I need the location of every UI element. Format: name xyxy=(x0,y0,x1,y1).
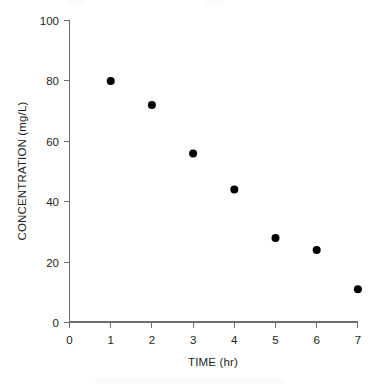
y-tick-label: 0 xyxy=(53,317,59,329)
y-tick-label: 80 xyxy=(46,75,59,87)
y-tick-label: 60 xyxy=(46,136,59,148)
data-point xyxy=(148,101,156,109)
chart-canvas: 100 80 60 40 20 0 0 1 2 3 4 5 6 7 xyxy=(0,0,373,385)
data-point xyxy=(189,149,197,157)
y-tick-label: 40 xyxy=(46,196,59,208)
x-tick-label: 4 xyxy=(231,334,238,346)
x-tick-label: 1 xyxy=(107,334,113,346)
x-tick-label: 5 xyxy=(272,334,278,346)
data-point xyxy=(354,285,362,293)
x-axis-title: TIME (hr) xyxy=(188,356,238,368)
scatter-chart: 100 80 60 40 20 0 0 1 2 3 4 5 6 7 xyxy=(0,0,373,385)
bottom-edge-artifact xyxy=(95,378,285,384)
x-tick-label: 0 xyxy=(66,334,72,346)
data-point xyxy=(272,234,280,242)
data-point xyxy=(313,246,321,254)
data-point xyxy=(107,77,115,85)
y-tick-label: 20 xyxy=(46,257,59,269)
top-edge-artifact xyxy=(66,0,86,5)
x-tick-label: 2 xyxy=(149,334,155,346)
y-axis-title: CONCENTRATION (mg/L) xyxy=(16,102,28,241)
y-tick-label: 100 xyxy=(40,15,59,27)
top-edge-artifact-2 xyxy=(205,0,223,5)
data-point xyxy=(230,186,238,194)
x-tick-label: 7 xyxy=(355,334,361,346)
x-tick-label: 3 xyxy=(190,334,196,346)
x-tick-label: 6 xyxy=(313,334,319,346)
